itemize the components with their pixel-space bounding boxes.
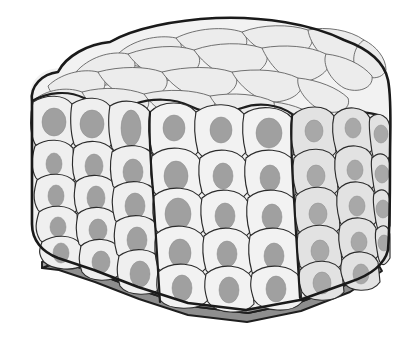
cell-nucleus [309, 203, 327, 225]
cell-nucleus [165, 198, 191, 230]
cell-nucleus [345, 118, 361, 138]
stratified-epithelium-illustration: Stratified epithelium tissue block Grays… [0, 0, 415, 347]
cell-nucleus [80, 110, 104, 138]
cell-nucleus [50, 217, 66, 237]
cell-nucleus [210, 117, 232, 143]
cell-nucleus [219, 277, 239, 303]
cell-nucleus [347, 160, 363, 180]
left-face-cell-group [31, 96, 163, 294]
cell-nucleus [375, 165, 389, 183]
cell-nucleus [48, 185, 64, 207]
front-face-cell-group [149, 103, 302, 312]
cell-nucleus [351, 232, 367, 252]
cell-nucleus [266, 276, 286, 302]
cell-nucleus [264, 243, 284, 269]
cell-nucleus [163, 115, 185, 141]
cell-nucleus [349, 196, 365, 216]
cell-nucleus [311, 240, 329, 262]
right-face-cell-group [291, 107, 390, 300]
cell-nucleus [260, 165, 280, 191]
cell-nucleus [256, 118, 282, 148]
cell-nucleus [374, 125, 388, 143]
cell-nucleus [42, 108, 66, 136]
cell-nucleus [305, 120, 323, 142]
cell-nucleus [121, 110, 141, 146]
cell-nucleus [172, 275, 192, 301]
cell-nucleus [85, 154, 103, 178]
cell-nucleus [213, 163, 233, 189]
cell-nucleus [307, 165, 325, 187]
cell-nucleus [130, 261, 150, 287]
cell-nucleus [46, 153, 62, 175]
cell-nucleus [376, 200, 390, 218]
cell-nucleus [87, 186, 105, 210]
cell-nucleus [89, 219, 107, 241]
cell-nucleus [217, 241, 237, 267]
cell-nucleus [262, 204, 282, 230]
tissue-diagram-figure: Stratified epithelium tissue block Grays… [0, 0, 415, 347]
cell-nucleus [169, 239, 191, 267]
cell-nucleus [164, 161, 188, 191]
cell-nucleus [215, 203, 235, 229]
